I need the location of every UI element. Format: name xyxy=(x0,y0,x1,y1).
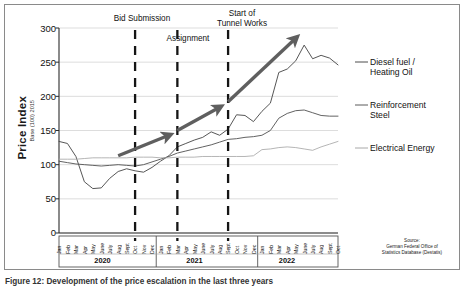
x-axis-month-label: Aug xyxy=(217,238,223,254)
x-axis-month-label: Aug xyxy=(116,238,122,254)
x-axis-month-label: Nov xyxy=(141,238,147,254)
x-axis-month-label: July xyxy=(107,238,113,254)
x-axis-month-label: May xyxy=(192,238,198,254)
x-axis-month-label: Sept xyxy=(225,238,231,254)
x-axis-month-label: Mar xyxy=(175,238,181,254)
x-axis-month-label: June xyxy=(99,238,105,254)
x-axis-month-label: Oct xyxy=(234,238,240,254)
x-axis-month-label: Jan xyxy=(259,238,265,254)
x-axis-month-label: Feb xyxy=(268,238,274,254)
x-axis-month-label: Oct xyxy=(132,238,138,254)
x-axis-month-label: June xyxy=(302,238,308,254)
figure-container: Price Index Base (100) 2015 300 250 200 … xyxy=(0,0,466,287)
x-axis-month-label: May xyxy=(293,238,299,254)
x-axis-month-label: Feb xyxy=(166,238,172,254)
x-axis-month-label: July xyxy=(310,238,316,254)
x-axis-month-label: Nov xyxy=(242,238,248,254)
x-axis-month-label: Jan xyxy=(158,238,164,254)
x-axis-month-label: July xyxy=(209,238,215,254)
trend-arrows xyxy=(118,38,296,156)
x-axis-month-label: Jan xyxy=(56,238,62,254)
x-axis-month-label: Mar xyxy=(73,238,79,254)
x-axis-month-label: Oct xyxy=(335,238,341,254)
x-axis-month-label: Sept xyxy=(124,238,130,254)
x-axis-month-label: June xyxy=(200,238,206,254)
x-axis-month-label: Mar xyxy=(276,238,282,254)
x-axis-month-label: Apr xyxy=(82,238,88,254)
x-axis-month-label: Apr xyxy=(183,238,189,254)
x-axis-month-label: May xyxy=(90,238,96,254)
event-marker-lines xyxy=(135,30,228,241)
legend-markers xyxy=(355,62,368,148)
x-axis-month-label: Sept xyxy=(327,238,333,254)
series-lines xyxy=(59,45,338,189)
x-axis-month-label: Dec xyxy=(149,238,155,254)
x-axis-month-label: Apr xyxy=(285,238,291,254)
x-axis-month-label: Aug xyxy=(318,238,324,254)
gridlines xyxy=(59,28,338,233)
x-axis-month-label: Dec xyxy=(251,238,257,254)
x-axis-month-label: Feb xyxy=(65,238,71,254)
